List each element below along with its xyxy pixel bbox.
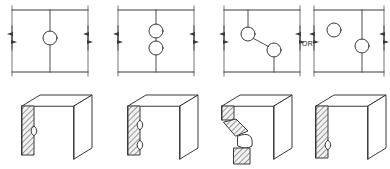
round-notch — [140, 140, 143, 150]
hole-circle — [149, 24, 163, 38]
panel-1-schematic — [12, 6, 88, 76]
hole-circle — [43, 31, 57, 45]
section-face-hatched — [128, 106, 140, 155]
hole-circle — [241, 27, 255, 41]
panel-3-schematic — [224, 6, 300, 76]
round-notch — [34, 126, 37, 136]
hole-circle — [267, 43, 281, 57]
pictorial-4-isometric — [316, 95, 386, 159]
hole-circle — [355, 39, 369, 53]
or-label: OR — [302, 40, 313, 47]
round-notch — [328, 140, 331, 150]
section-face-hatched — [234, 148, 250, 164]
pictorial-1-isometric — [22, 95, 92, 159]
hole-circle — [149, 41, 163, 55]
round-notch — [140, 120, 143, 130]
section-face-hatched — [22, 106, 34, 155]
engineering-drawing-sheet: OR — [0, 0, 390, 169]
pictorial-3-isometric — [222, 95, 292, 164]
drawing-canvas — [0, 0, 390, 169]
panel-2-schematic — [118, 6, 194, 76]
section-face-hatched — [222, 106, 234, 120]
offset-link-block — [224, 119, 248, 136]
diagonal-connector — [254, 39, 269, 47]
pictorial-2-isometric — [128, 95, 198, 159]
hole-circle — [327, 23, 341, 37]
panel-4-schematic — [314, 6, 384, 76]
round-notch — [238, 134, 252, 148]
section-face-hatched — [316, 106, 328, 158]
